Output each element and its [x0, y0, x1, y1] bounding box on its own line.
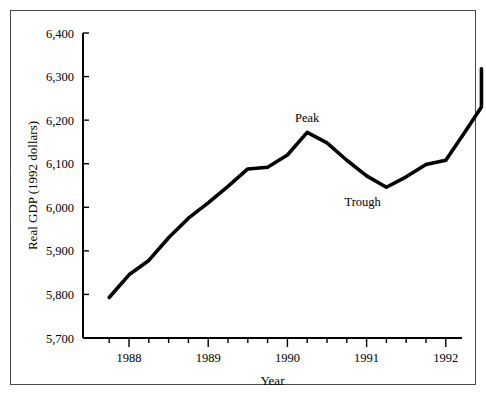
- x-axis-tick-label: 1988: [117, 351, 142, 365]
- y-axis-tick-labels: 5,7005,8005,9006,0006,1006,2006,3006,400: [46, 27, 74, 346]
- x-axis-tick-label: 1989: [196, 351, 221, 365]
- annotation-trough: Trough: [344, 195, 381, 209]
- line-chart-plot: 5,7005,8005,9006,0006,1006,2006,3006,400…: [0, 0, 486, 396]
- x-axis-ticks: [109, 338, 446, 347]
- chart-annotations: PeakTrough: [295, 111, 382, 209]
- x-axis-tick-label: 1992: [433, 351, 458, 365]
- y-axis-title: Real GDP (1992 dollars): [25, 121, 40, 250]
- y-axis-tick-label: 6,200: [46, 114, 74, 128]
- y-axis-tick-label: 5,700: [46, 332, 74, 346]
- chart-figure: 5,7005,8005,9006,0006,1006,2006,3006,400…: [0, 0, 486, 396]
- x-axis-tick-labels: 19881989199019911992: [117, 351, 459, 365]
- x-axis-tick-label: 1991: [354, 351, 379, 365]
- x-axis-tick-label: 1990: [275, 351, 300, 365]
- gdp-series-line: [109, 69, 481, 298]
- y-axis-tick-label: 6,400: [46, 27, 74, 41]
- annotation-peak: Peak: [295, 111, 320, 125]
- y-axis-tick-label: 6,000: [46, 201, 74, 215]
- y-axis-tick-label: 6,100: [46, 157, 74, 171]
- y-axis-tick-label: 5,900: [46, 244, 74, 258]
- y-axis-tick-label: 5,800: [46, 288, 74, 302]
- y-axis-tick-label: 6,300: [46, 70, 74, 84]
- x-axis-title: Year: [261, 373, 286, 388]
